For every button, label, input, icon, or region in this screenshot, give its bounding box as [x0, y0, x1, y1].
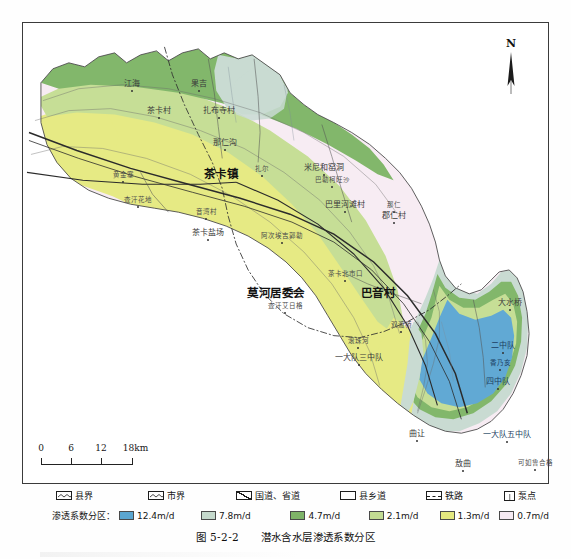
zone-swatch-4-7 [290, 511, 305, 520]
zone-swatch-12-4 [119, 511, 134, 520]
county-road-icon [340, 491, 356, 500]
map-place-dot [506, 441, 508, 443]
map-place-dot [331, 186, 333, 188]
map-place-dot [416, 440, 418, 442]
map-place-dot [393, 211, 395, 213]
city-boundary-icon [148, 491, 164, 500]
scale-tick-2: 12 [95, 443, 106, 453]
figure-title: 潜水含水层渗透系数分区 [261, 531, 375, 543]
legend-zone-1-3: 1.3m/d [440, 511, 500, 521]
legend-item-county-road: 县乡道 [340, 489, 426, 502]
legend-label-county-road: 县乡道 [359, 489, 386, 502]
zone-value-1-3: 1.3m/d [458, 511, 490, 521]
legend-label-county-boundary: 县界 [75, 489, 93, 502]
map-place-dot [207, 239, 209, 241]
map-place-dot [502, 352, 504, 354]
scan-artifact [40, 552, 300, 557]
map-place-dot [218, 117, 220, 119]
map-canvas [23, 23, 548, 483]
map-place-dot [534, 469, 536, 471]
legend-item-county-boundary: 县界 [56, 489, 148, 502]
scale-bar-ticks: 0 6 12 18km [37, 443, 147, 456]
pumping-point-icon [504, 491, 515, 501]
legend-label-pumping-point: 泵点 [518, 489, 536, 502]
legend-zone-0-7: 0.7m/d [499, 511, 549, 521]
map-place-dot [137, 206, 139, 208]
legend-zone-title: 渗透系数分区： [52, 509, 115, 522]
legend-label-national-road: 国道、省道 [255, 489, 300, 502]
legend-item-pumping-point: 泵点 [504, 489, 536, 502]
zone-value-0-7: 0.7m/d [517, 511, 549, 521]
map-place-dot [323, 174, 325, 176]
legend-zone-7-8: 7.8m/d [201, 511, 290, 521]
legend-zone-4-7: 4.7m/d [290, 511, 368, 521]
map-place-dot [131, 90, 133, 92]
zone-value-4-7: 4.7m/d [308, 511, 340, 521]
legend-item-national-road: 国道、省道 [236, 489, 340, 502]
scale-tick-1: 6 [68, 443, 74, 453]
map-place-dot [357, 347, 359, 349]
railway-icon [426, 491, 442, 500]
zone-swatch-2-1 [369, 511, 384, 520]
legend-zone-2-1: 2.1m/d [369, 511, 440, 521]
zone-value-2-1: 2.1m/d [387, 511, 419, 521]
zone-swatch-0-7 [499, 511, 514, 520]
figure-number: 图 5-2-2 [196, 531, 239, 543]
map-place-dot [462, 470, 464, 472]
scale-tick-0: 0 [38, 443, 44, 453]
scale-tick-3: 18km [123, 443, 148, 453]
map-place-dot [261, 175, 263, 177]
legend-label-railway: 铁路 [445, 489, 463, 502]
map-place-dot [205, 218, 207, 220]
map-place-dot [284, 312, 286, 314]
figure-page: 茶卡镇莫河居委会巴音村茶卡盐场茶卡村江海果吉扎布寺村那仁沟扎尔米尼和窑洞巴勒柯旺… [0, 0, 571, 559]
national-road-icon [236, 491, 252, 500]
north-arrow-needle [506, 52, 516, 94]
legend-symbol-row: 县界 市界 国道、省道 县乡道 [22, 489, 549, 502]
scale-bar: 0 6 12 18km [37, 443, 147, 473]
north-arrow: N [498, 37, 524, 95]
legend-label-city-boundary: 市界 [167, 489, 185, 502]
legend-zone-12-4: 12.4m/d [119, 511, 201, 521]
map-place-dot [344, 211, 346, 213]
zone-value-7-8: 7.8m/d [219, 511, 251, 521]
map-place-dot [344, 280, 346, 282]
scale-bar-graphic [41, 458, 133, 465]
map-place-dot [400, 331, 402, 333]
map-place-dot [393, 222, 395, 224]
map-place-dot [158, 117, 160, 119]
legend-item-city-boundary: 市界 [148, 489, 236, 502]
map-frame: 茶卡镇莫河居委会巴音村茶卡盐场茶卡村江海果吉扎布寺村那仁沟扎尔米尼和窑洞巴勒柯旺… [22, 22, 549, 484]
map-place-dot [499, 369, 501, 371]
figure-caption: 图 5-2-2 潜水含水层渗透系数分区 [0, 529, 571, 544]
map-place-dot [509, 309, 511, 311]
map-place-dot [358, 364, 360, 366]
legend-zone-row: 渗透系数分区： 12.4m/d 7.8m/d 4.7m/d 2.1m/d 1.3… [22, 509, 549, 522]
map-place-dot [281, 242, 283, 244]
map-place-dot [198, 90, 200, 92]
legend: 县界 市界 国道、省道 县乡道 [22, 489, 549, 522]
zone-swatch-1-3 [440, 511, 455, 520]
map-place-dot [224, 149, 226, 151]
map-place-dot [497, 388, 499, 390]
zone-value-12-4: 12.4m/d [137, 511, 175, 521]
county-boundary-icon [56, 491, 72, 500]
zone-swatch-7-8 [201, 511, 216, 520]
legend-item-railway: 铁路 [426, 489, 504, 502]
north-arrow-label: N [506, 37, 516, 50]
map-place-dot [122, 181, 124, 183]
